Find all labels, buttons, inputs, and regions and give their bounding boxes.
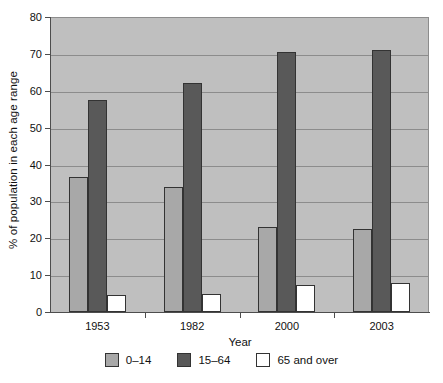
y-axis-tick-mark (45, 54, 50, 55)
y-axis-tick-label: 10 (30, 269, 42, 281)
legend-swatch-icon (177, 353, 191, 367)
bar-group (353, 17, 410, 312)
bar (164, 187, 183, 312)
y-axis-tick-label: 0 (36, 306, 42, 318)
y-axis-tick-label: 30 (30, 195, 42, 207)
x-axis-tick-label: 2003 (369, 320, 393, 332)
bar (296, 285, 315, 312)
y-axis-tick-mark (45, 201, 50, 202)
bar (88, 100, 107, 312)
bar-group (258, 17, 315, 312)
y-axis-tick-mark (45, 275, 50, 276)
legend-item[interactable]: 0–14 (105, 353, 152, 367)
bar (391, 283, 410, 313)
y-axis-tick-label: 60 (30, 85, 42, 97)
bar (277, 52, 296, 312)
y-axis-tick-mark (45, 238, 50, 239)
legend-swatch-icon (256, 353, 270, 367)
x-axis-title: Year (50, 336, 430, 348)
y-axis-tick-mark (45, 91, 50, 92)
y-axis-tick-mark (45, 17, 50, 18)
bar (69, 177, 88, 312)
y-axis-tick-mark (45, 312, 50, 313)
chart-legend: 0–1415–6465 and over (0, 353, 443, 367)
legend-swatch-icon (105, 353, 119, 367)
y-axis-title: % of population in each age range (0, 0, 26, 320)
y-axis-tick-mark (45, 165, 50, 166)
bar (202, 294, 221, 312)
bar (258, 227, 277, 312)
x-axis-tick-labels: 1953198220002003 (50, 320, 430, 336)
x-axis-tick-mark (334, 313, 335, 318)
bar (353, 229, 372, 312)
legend-item-label: 0–14 (126, 354, 152, 366)
legend-item[interactable]: 15–64 (177, 353, 230, 367)
x-axis-tick-label: 1953 (85, 320, 109, 332)
y-axis-tick-label: 20 (30, 232, 42, 244)
y-axis-tick-label: 70 (30, 48, 42, 60)
x-axis-tick-mark (240, 313, 241, 318)
bar-group (69, 17, 126, 312)
bars-layer (50, 17, 430, 312)
bar (372, 50, 391, 312)
bar-group (164, 17, 221, 312)
y-axis-title-text: % of population in each age range (7, 71, 19, 249)
y-axis-tick-label: 80 (30, 11, 42, 23)
x-axis-tick-mark (145, 313, 146, 318)
legend-item-label: 15–64 (198, 354, 230, 366)
legend-item[interactable]: 65 and over (256, 353, 338, 367)
x-axis-tick-label: 1982 (180, 320, 204, 332)
bar-chart-figure: % of population in each age range 010203… (0, 0, 443, 383)
y-axis-tick-label: 40 (30, 159, 42, 171)
bar (107, 295, 126, 312)
y-axis-tick-labels: 01020304050607080 (24, 17, 46, 312)
y-axis-tick-mark (45, 128, 50, 129)
y-axis-tick-label: 50 (30, 122, 42, 134)
bar (183, 83, 202, 312)
legend-item-label: 65 and over (277, 354, 338, 366)
x-axis-tick-label: 2000 (275, 320, 299, 332)
